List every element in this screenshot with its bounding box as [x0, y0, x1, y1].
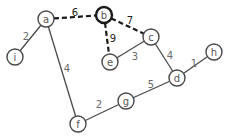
edge-weight-a-i: 2 — [23, 31, 29, 42]
node-label: h — [211, 47, 217, 58]
edge-weight-f-g: 2 — [96, 99, 102, 110]
node-a[interactable]: a — [38, 11, 54, 27]
node-c[interactable]: c — [143, 29, 159, 45]
edge-weight-d-g: 5 — [148, 79, 154, 90]
node-b[interactable]: b — [96, 7, 112, 23]
edge-weight-c-e: 3 — [132, 51, 138, 62]
node-label: e — [107, 57, 113, 68]
edge-a-f — [46, 19, 78, 124]
node-e[interactable]: e — [102, 54, 118, 70]
edge-weight-a-f: 4 — [64, 63, 70, 74]
node-label: f — [76, 119, 80, 130]
edge-weight-c-d: 4 — [167, 50, 173, 61]
node-label: d — [174, 73, 180, 84]
graph-diagram: 6792434152 abcdefghi — [0, 0, 230, 138]
node-label: b — [101, 10, 107, 21]
node-label: i — [14, 52, 17, 63]
node-f[interactable]: f — [70, 116, 86, 132]
edge-weight-b-e: 9 — [110, 33, 116, 44]
node-label: a — [43, 14, 49, 25]
edge-weight-b-c: 7 — [127, 15, 133, 26]
node-i[interactable]: i — [7, 49, 23, 65]
node-label: g — [123, 96, 129, 107]
node-label: c — [148, 32, 154, 43]
edges-layer — [15, 15, 214, 124]
edge-weight-d-h: 1 — [191, 58, 197, 69]
node-g[interactable]: g — [118, 93, 134, 109]
edge-weight-a-b: 6 — [72, 7, 78, 18]
node-h[interactable]: h — [206, 44, 222, 60]
node-d[interactable]: d — [169, 70, 185, 86]
